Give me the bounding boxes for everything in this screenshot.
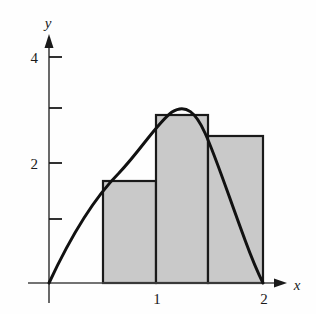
- y-axis-label: y: [43, 15, 52, 31]
- riemann-rectangle: [103, 181, 156, 283]
- x-tick-label-1: 1: [153, 291, 161, 307]
- x-tick-label-2: 2: [260, 291, 268, 307]
- y-tick-label-4: 4: [31, 50, 39, 66]
- riemann-sum-plot: 4 2 1 2 y x: [0, 0, 316, 314]
- y-axis-ticks: [49, 57, 62, 219]
- figure-container: 4 2 1 2 y x: [0, 0, 316, 314]
- riemann-rectangle: [156, 115, 208, 283]
- riemann-rectangles-group: [103, 115, 263, 283]
- y-tick-label-2: 2: [31, 156, 39, 172]
- y-axis: [45, 34, 54, 303]
- x-axis-label: x: [293, 277, 301, 293]
